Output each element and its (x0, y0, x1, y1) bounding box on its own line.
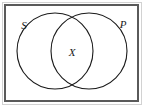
intersection-label: X (68, 46, 77, 58)
venn-diagram-figure: S P X (0, 0, 144, 110)
set-s-label: S (21, 19, 27, 31)
venn-diagram-canvas: S P X (0, 0, 144, 110)
set-p-label: P (119, 18, 127, 30)
